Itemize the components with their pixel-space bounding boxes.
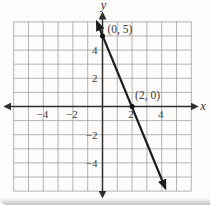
y-tick-label: 2	[92, 72, 98, 84]
data-point	[130, 104, 135, 109]
chart-root: −4−22442−2−4(0, 5)(2, 0)xy	[6, 0, 207, 196]
graph-figure: −4−22442−2−4(0, 5)(2, 0)xy	[0, 0, 210, 205]
y-tick-label: −2	[86, 129, 98, 141]
coordinate-plane: −4−22442−2−4(0, 5)(2, 0)xy	[0, 0, 210, 205]
x-tick-label: −4	[36, 108, 48, 120]
y-tick-label: 4	[92, 44, 98, 56]
data-point	[100, 34, 105, 39]
x-tick-label: 4	[158, 108, 164, 120]
x-tick-label: −2	[66, 108, 78, 120]
point-label: (2, 0)	[135, 89, 160, 102]
x-axis-label: x	[199, 99, 206, 113]
y-tick-label: −4	[86, 157, 98, 169]
y-axis-label: y	[99, 0, 107, 12]
point-label: (0, 5)	[108, 23, 133, 36]
